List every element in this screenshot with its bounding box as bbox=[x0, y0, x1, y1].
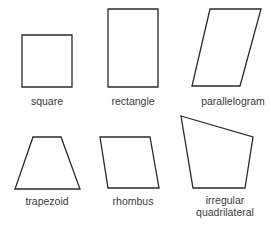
rhombus-shape bbox=[100, 137, 159, 188]
square-shape bbox=[22, 35, 72, 87]
square-label: square bbox=[31, 95, 63, 107]
rhombus-label: rhombus bbox=[113, 195, 154, 207]
irregular-quadrilateral-label-line2: quadrilateral bbox=[196, 206, 254, 218]
irregular-quadrilateral-label: irregular quadrilateral bbox=[196, 194, 254, 218]
irregular-quadrilateral-label-line1: irregular bbox=[196, 194, 254, 206]
irregular-quadrilateral-shape bbox=[181, 116, 253, 188]
trapezoid-label: trapezoid bbox=[25, 195, 68, 207]
parallelogram-label: parallelogram bbox=[201, 95, 265, 107]
rectangle-label: rectangle bbox=[111, 95, 154, 107]
parallelogram-shape bbox=[192, 9, 261, 86]
trapezoid-shape bbox=[15, 137, 80, 189]
rectangle-shape bbox=[108, 9, 158, 87]
